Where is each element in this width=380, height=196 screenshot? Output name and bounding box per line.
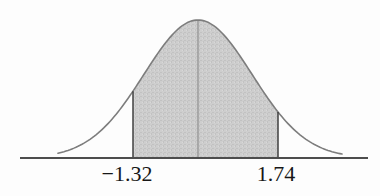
normal-curve-svg: −1.32 1.74 xyxy=(0,0,380,196)
shaded-area-under-curve xyxy=(133,20,278,158)
tick-label-1-74: 1.74 xyxy=(257,161,296,186)
normal-curve-figure: −1.32 1.74 xyxy=(0,0,380,196)
tick-label-negative-1-32: −1.32 xyxy=(102,161,153,186)
